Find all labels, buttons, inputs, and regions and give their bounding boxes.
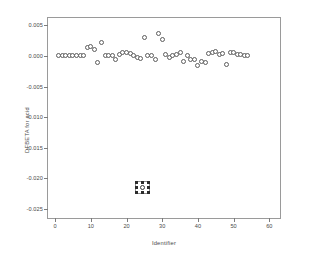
y-axis-tick	[44, 56, 48, 57]
data-point[interactable]	[142, 35, 147, 40]
y-axis-tick	[44, 87, 48, 88]
x-axis-tick-label: 60	[266, 223, 272, 229]
y-axis-tick-label: -0.010	[27, 114, 43, 120]
data-point[interactable]	[181, 59, 186, 64]
y-axis-tick-label: 0.000	[29, 53, 44, 59]
data-point[interactable]	[153, 57, 158, 62]
selection-handle-tl[interactable]	[135, 181, 138, 184]
y-axis-tick	[44, 148, 48, 149]
x-axis-tick	[269, 218, 270, 222]
y-axis-tick-label: -0.005	[27, 84, 43, 90]
x-axis-tick	[162, 218, 163, 222]
selection-handle-mr[interactable]	[147, 186, 150, 189]
y-axis-tick-label: -0.025	[27, 206, 43, 212]
x-axis-tick	[234, 218, 235, 222]
data-point[interactable]	[178, 50, 183, 55]
x-axis-title: Identifier	[47, 240, 281, 246]
data-point[interactable]	[99, 40, 104, 45]
selection-handle-ml[interactable]	[135, 186, 138, 189]
data-point[interactable]	[220, 51, 225, 56]
x-axis-tick-label: 20	[123, 223, 129, 229]
y-axis-tick	[44, 178, 48, 179]
data-point[interactable]	[95, 60, 100, 65]
data-point[interactable]	[138, 56, 143, 61]
scatter-plot-figure: DFBETA for acid Identifier 0.0050.000-0.…	[0, 0, 315, 259]
x-axis-tick	[91, 218, 92, 222]
y-axis-tick-label: 0.005	[29, 22, 44, 28]
x-axis-tick	[127, 218, 128, 222]
x-axis-tick-label: 10	[88, 223, 94, 229]
data-point[interactable]	[245, 53, 250, 58]
x-axis-tick-label: 0	[54, 223, 57, 229]
x-axis-tick-label: 50	[230, 223, 236, 229]
x-axis-tick-label: 40	[195, 223, 201, 229]
x-axis-tick-label: 30	[159, 223, 165, 229]
selection-handle-bl[interactable]	[135, 191, 138, 194]
selection-handle-tr[interactable]	[147, 181, 150, 184]
data-point[interactable]	[113, 57, 118, 62]
data-point[interactable]	[192, 57, 197, 62]
selection-handle-br[interactable]	[147, 191, 150, 194]
selection-handle-tc[interactable]	[141, 181, 144, 184]
selection-box[interactable]	[135, 181, 150, 194]
y-axis-tick	[44, 117, 48, 118]
y-axis-tick	[44, 25, 48, 26]
data-point[interactable]	[81, 53, 86, 58]
plot-frame: 0.0050.000-0.005-0.010-0.015-0.020-0.025…	[47, 17, 281, 219]
data-point[interactable]	[203, 60, 208, 65]
y-axis-tick-label: -0.020	[27, 175, 43, 181]
data-point[interactable]	[160, 37, 165, 42]
data-point[interactable]	[92, 47, 97, 52]
y-axis-tick-label: -0.015	[27, 145, 43, 151]
plot-area: 0.0050.000-0.005-0.010-0.015-0.020-0.025…	[48, 18, 280, 218]
selection-handle-bc[interactable]	[141, 191, 144, 194]
data-point[interactable]	[156, 31, 161, 36]
x-axis-tick	[198, 218, 199, 222]
x-axis-tick	[55, 218, 56, 222]
y-axis-tick	[44, 209, 48, 210]
data-point[interactable]	[224, 62, 229, 67]
